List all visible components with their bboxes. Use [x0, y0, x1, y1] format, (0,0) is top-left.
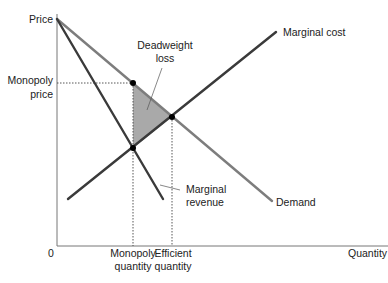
x-axis-label: Quantity: [348, 247, 387, 259]
deadweight-loss-label-line2: loss: [135, 52, 195, 64]
marginal-revenue-label-line1: Marginal: [186, 183, 226, 195]
efficient-quantity-label-line2: quantity: [150, 260, 196, 272]
marginal-revenue-leader: [160, 185, 180, 190]
efficient-quantity-label-line1: Efficient: [150, 247, 196, 259]
marginal-cost-label: Marginal cost: [283, 26, 345, 38]
monopoly-price-point: [130, 80, 136, 86]
origin-label: 0: [48, 247, 54, 259]
y-axis-label: Price: [3, 13, 53, 25]
deadweight-loss-area: [133, 83, 172, 148]
deadweight-loss-label-line1: Deadweight: [135, 39, 195, 51]
demand-label: Demand: [276, 196, 316, 208]
monopoly-price-label-line2: price: [0, 88, 53, 100]
monopoly-price-label-line1: Monopoly: [0, 74, 53, 86]
efficient-point: [169, 114, 175, 120]
marginal-revenue-label-line2: revenue: [186, 196, 224, 208]
monopoly-quantity-point: [130, 145, 136, 151]
